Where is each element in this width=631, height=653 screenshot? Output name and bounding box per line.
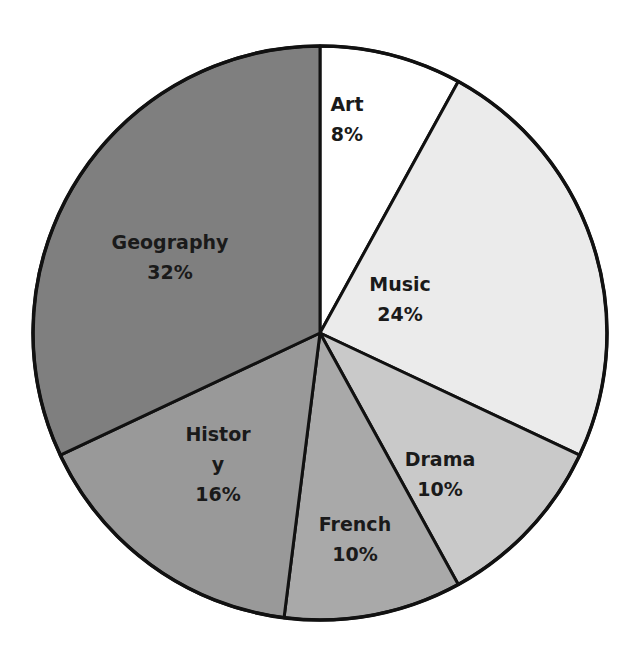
pie-chart: Art8%Music24%Drama10%French10%History16%…	[0, 0, 631, 653]
